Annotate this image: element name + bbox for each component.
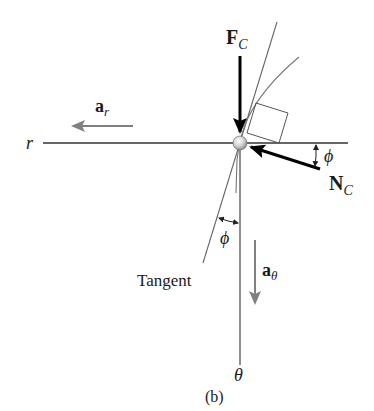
phi-upper-label: ϕ: [324, 146, 333, 166]
free-body-diagram: FC NC ar aθ r θ ϕ ϕ Tangent (b): [0, 0, 374, 411]
fc-label: FC: [226, 26, 248, 52]
theta-axis-label: θ: [234, 365, 243, 385]
nc-label: NC: [329, 172, 353, 198]
particle-ball: [233, 136, 247, 150]
normal-force-nc-arrow: [251, 147, 320, 169]
phi-angle-indicator-lower: [219, 218, 228, 221]
phi-lower-label: ϕ: [220, 228, 229, 248]
path-curve: [236, 57, 299, 193]
tangent-label: Tangent: [137, 271, 192, 290]
atheta-label: aθ: [262, 260, 278, 283]
figure-caption: (b): [205, 388, 224, 406]
ar-label: ar: [95, 96, 110, 119]
phi-angle-indicator-lower-2: [228, 221, 238, 223]
r-axis-label: r: [26, 133, 34, 153]
phi-angle-indicator-upper-2: [315, 156, 316, 166]
